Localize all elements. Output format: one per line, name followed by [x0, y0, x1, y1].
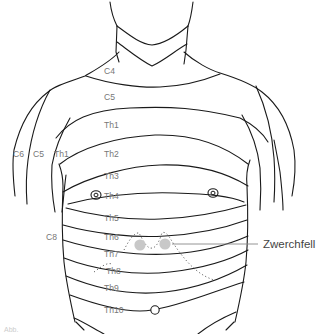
- label-th1: Th1: [104, 120, 119, 130]
- label-th6: Th6: [104, 232, 119, 242]
- label-th10: Th10: [104, 305, 124, 315]
- nipple-right: [208, 189, 218, 197]
- figure-caption: Abb.: [4, 326, 18, 333]
- label-th8: Th8: [106, 266, 121, 276]
- label-th9: Th9: [104, 283, 119, 293]
- label-arm-c6: C6: [13, 149, 24, 159]
- neck-outline: [110, 2, 193, 66]
- label-arm-th1: Th1: [54, 149, 69, 159]
- label-th2: Th2: [104, 149, 119, 159]
- body-outline: [13, 52, 295, 212]
- dermatome-diagram: C4 C5 Th1 Th2 Th3 Th4 Th5 Th6 Th7 Th8 Th…: [0, 0, 324, 334]
- label-zwerchfell: Zwerchfell: [263, 238, 315, 250]
- dermatome-figure: C4 C5 Th1 Th2 Th3 Th4 Th5 Th6 Th7 Th8 Th…: [0, 0, 324, 334]
- trunk-outline: [59, 160, 250, 330]
- label-th4: Th4: [104, 191, 119, 201]
- label-c8: C8: [46, 232, 57, 242]
- label-arm-c5: C5: [33, 149, 44, 159]
- label-c5: C5: [104, 92, 115, 102]
- label-th3: Th3: [104, 171, 119, 181]
- dermatome-bands: [56, 74, 268, 334]
- label-th5: Th5: [104, 213, 119, 223]
- umbilicus: [151, 306, 159, 314]
- label-c4: C4: [104, 66, 115, 76]
- label-th7: Th7: [104, 249, 119, 259]
